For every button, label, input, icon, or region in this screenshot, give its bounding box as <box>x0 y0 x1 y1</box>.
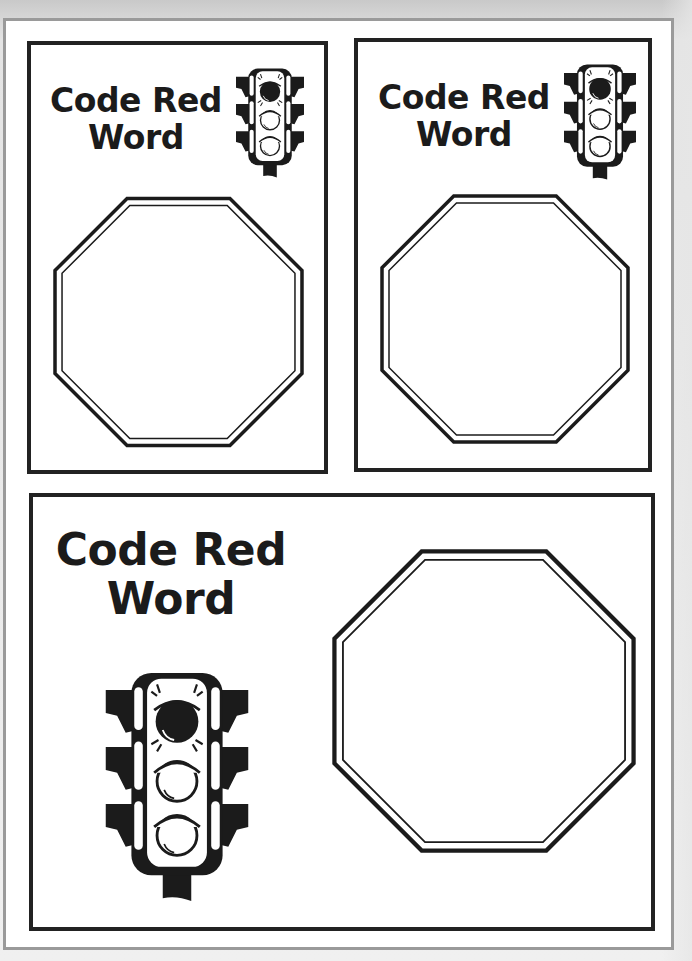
traffic-light-icon <box>105 673 249 901</box>
traffic-light-icon <box>236 63 304 183</box>
card-title-line1: Code Red <box>364 80 564 117</box>
card-title-line2: Word <box>364 117 564 154</box>
stop-sign-answer-box[interactable] <box>332 544 636 858</box>
card-title-line2: Word <box>41 120 231 157</box>
stop-sign-answer-box[interactable] <box>53 194 304 450</box>
card-title: Code Red Word <box>51 525 291 624</box>
code-red-card-top-right: Code Red Word <box>354 38 652 472</box>
card-title-line1: Code Red <box>51 525 291 574</box>
card-title: Code Red Word <box>41 83 231 157</box>
traffic-light-icon <box>564 62 636 182</box>
stop-sign-answer-box[interactable] <box>380 189 630 449</box>
code-red-card-bottom: Code Red Word <box>29 493 655 931</box>
card-title-line2: Word <box>51 574 291 623</box>
code-red-card-top-left: Code Red Word <box>27 41 328 474</box>
card-title: Code Red Word <box>364 80 564 154</box>
card-title-line1: Code Red <box>41 83 231 120</box>
